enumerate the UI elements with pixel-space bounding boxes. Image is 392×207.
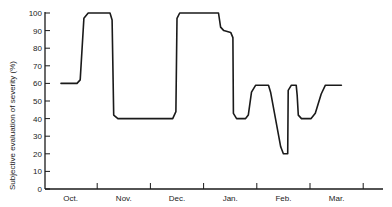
y-axis-ticks: 0102030405060708090100 [29, 9, 50, 194]
y-tick-label: 80 [33, 44, 42, 53]
y-tick-label: 10 [33, 167, 42, 176]
y-tick-label: 20 [33, 150, 42, 159]
y-axis-label: Subjective evaluation of severity (%) [8, 61, 17, 190]
y-tick-label: 50 [33, 97, 42, 106]
x-tick-label: Feb. [275, 194, 291, 203]
y-tick-label: 90 [33, 27, 42, 36]
x-tick-label: Oct. [63, 194, 78, 203]
x-tick-label: Jan. [223, 194, 238, 203]
x-tick-label: Nov. [116, 194, 132, 203]
x-tick-label: Dec. [169, 194, 185, 203]
severity-line-chart: Subjective evaluation of severity (%) 01… [0, 0, 392, 207]
y-tick-label: 70 [33, 62, 42, 71]
y-tick-label: 30 [33, 132, 42, 141]
y-tick-label: 40 [33, 115, 42, 124]
x-axis-ticks: Oct.Nov.Dec.Jan.Feb.Mar. [63, 183, 363, 203]
y-tick-label: 0 [38, 185, 43, 194]
severity-line [61, 13, 341, 154]
x-tick-label: Mar. [329, 194, 345, 203]
y-tick-label: 100 [29, 9, 43, 18]
y-tick-label: 60 [33, 79, 42, 88]
